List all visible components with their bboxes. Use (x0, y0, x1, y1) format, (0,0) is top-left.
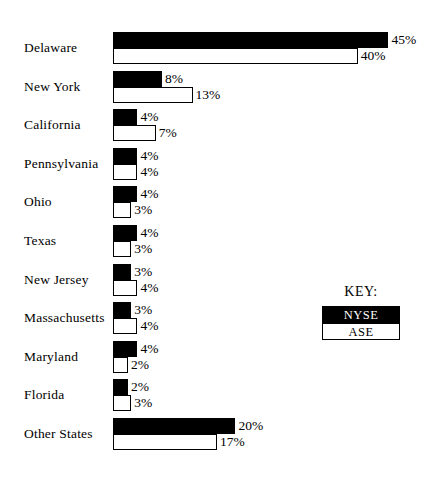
bar-value-label: 2% (128, 379, 149, 395)
bar-ase (113, 87, 193, 103)
category-label: Ohio (24, 194, 52, 210)
bar-value-label: 4% (137, 318, 158, 334)
bar-ase (113, 318, 137, 334)
bar-ase (113, 164, 137, 180)
bar-row-nyse: 4% (113, 225, 197, 241)
bar-row-ase: 4% (113, 280, 197, 296)
bar-group: Texas4%3% (0, 224, 436, 262)
bar-row-ase: 3% (113, 395, 191, 411)
category-label: Other States (24, 426, 93, 442)
category-label: New Jersey (24, 272, 89, 288)
bar-ase (113, 395, 131, 411)
bar-row-nyse: 3% (113, 302, 191, 318)
bar-row-nyse: 20% (113, 418, 295, 434)
bar-ase (113, 48, 358, 64)
bar-group: New York8%13% (0, 70, 436, 108)
bar-value-label: 40% (358, 48, 386, 64)
bar-value-label: 4% (137, 225, 158, 241)
bar-group: Florida2%3% (0, 378, 436, 416)
bar-value-label: 17% (217, 434, 245, 450)
legend-box: NYSE ASE (322, 306, 400, 340)
bar-nyse (113, 379, 128, 395)
bar-nyse (113, 32, 388, 48)
bar-group: Pennsylvania4%4% (0, 147, 436, 185)
bar-nyse (113, 341, 137, 357)
bar-row-ase: 2% (113, 357, 188, 373)
bar-nyse (113, 418, 235, 434)
bar-group: Other States20%17% (0, 417, 436, 455)
bar-nyse (113, 71, 162, 87)
bar-value-label: 4% (137, 148, 158, 164)
legend-title: KEY: (322, 283, 400, 301)
bar-value-label: 4% (137, 186, 158, 202)
bar-ase (113, 125, 156, 141)
bar-ase (113, 280, 137, 296)
chart-legend: KEY: NYSE ASE (322, 283, 400, 340)
category-label: Florida (24, 387, 64, 403)
bar-row-ase: 3% (113, 241, 191, 257)
bar-row-ase: 17% (113, 434, 277, 450)
bar-value-label: 4% (137, 280, 158, 296)
bar-row-ase: 40% (113, 48, 418, 64)
bar-ase (113, 434, 217, 450)
bar-nyse (113, 186, 137, 202)
bar-row-ase: 4% (113, 318, 197, 334)
category-label: California (24, 117, 81, 133)
bar-group: Ohio4%3% (0, 185, 436, 223)
bar-row-ase: 13% (113, 87, 253, 103)
bar-value-label: 4% (137, 164, 158, 180)
bar-value-label: 13% (193, 87, 221, 103)
bar-group: California4%7% (0, 108, 436, 146)
bar-row-ase: 3% (113, 202, 191, 218)
bar-row-ase: 4% (113, 164, 197, 180)
bar-value-label: 45% (388, 32, 416, 48)
bar-value-label: 3% (131, 395, 152, 411)
bar-value-label: 3% (131, 264, 152, 280)
bar-row-nyse: 4% (113, 148, 197, 164)
bar-row-nyse: 4% (113, 186, 197, 202)
bar-row-nyse: 8% (113, 71, 222, 87)
bar-row-nyse: 3% (113, 264, 191, 280)
category-label: Delaware (24, 40, 77, 56)
bar-value-label: 2% (128, 357, 149, 373)
bar-value-label: 3% (131, 241, 152, 257)
category-label: Maryland (24, 349, 78, 365)
bar-ase (113, 357, 128, 373)
bar-value-label: 4% (137, 341, 158, 357)
bar-chart: Delaware45%40%New York8%13%California4%7… (0, 0, 436, 496)
bar-row-nyse: 45% (113, 32, 436, 48)
category-label: Pennsylvania (24, 156, 98, 172)
bar-value-label: 20% (235, 418, 263, 434)
bar-ase (113, 241, 131, 257)
bar-group: Maryland4%2% (0, 340, 436, 378)
legend-entry-nyse: NYSE (323, 307, 399, 323)
bar-value-label: 3% (131, 302, 152, 318)
bar-row-nyse: 2% (113, 379, 188, 395)
bar-value-label: 7% (156, 125, 177, 141)
bar-nyse (113, 302, 131, 318)
category-label: New York (24, 79, 80, 95)
bar-ase (113, 202, 131, 218)
legend-entry-ase: ASE (323, 323, 399, 339)
bar-row-nyse: 4% (113, 341, 197, 357)
bar-nyse (113, 264, 131, 280)
bar-row-nyse: 4% (113, 109, 197, 125)
category-label: Massachusetts (24, 310, 105, 326)
bar-value-label: 4% (137, 109, 158, 125)
bar-value-label: 8% (162, 71, 183, 87)
bar-row-ase: 7% (113, 125, 216, 141)
bar-nyse (113, 109, 137, 125)
bar-value-label: 3% (131, 202, 152, 218)
bar-group: Delaware45%40% (0, 31, 436, 69)
category-label: Texas (24, 233, 56, 249)
bar-nyse (113, 225, 137, 241)
bar-nyse (113, 148, 137, 164)
